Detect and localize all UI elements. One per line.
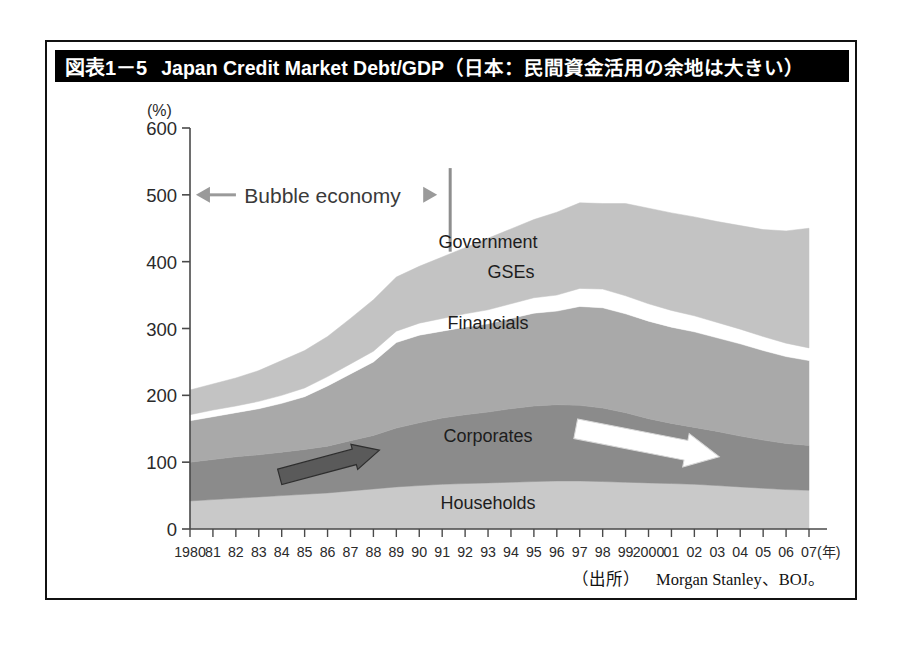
stacked-area-chart: Bubble economy 0100200300400500600(%)198…: [47, 88, 859, 600]
arrow-right-icon: [423, 187, 437, 203]
series-label-corporates: Corporates: [444, 426, 533, 446]
x-tick-label: 90: [411, 544, 427, 560]
x-tick-label: 98: [595, 544, 611, 560]
x-tick-label: 87: [343, 544, 359, 560]
figure-title-bar: 図表1－5 Japan Credit Market Debt/GDP（日本：民間…: [55, 50, 849, 82]
source-text: Morgan Stanley、BOJ。: [656, 570, 825, 589]
x-tick-label: 91: [434, 544, 450, 560]
x-tick-label: 95: [526, 544, 542, 560]
figure-number: 図表1－5: [65, 52, 147, 81]
x-tick-label: 83: [251, 544, 267, 560]
x-tick-label: 86: [320, 544, 336, 560]
x-tick-label: 81: [205, 544, 221, 560]
x-tick-label: 07: [801, 544, 817, 560]
x-tick-label: 82: [228, 544, 244, 560]
y-tick-label: 500: [146, 185, 177, 206]
x-tick-label: 85: [297, 544, 313, 560]
y-tick-label: 300: [146, 319, 177, 340]
figure-panel: 図表1－5 Japan Credit Market Debt/GDP（日本：民間…: [45, 40, 857, 600]
x-tick-label: 92: [457, 544, 473, 560]
x-tick-label: 97: [572, 544, 588, 560]
y-tick-label: 200: [146, 385, 177, 406]
bubble-economy-label: Bubble economy: [244, 184, 401, 207]
y-tick-label: 100: [146, 452, 177, 473]
x-tick-label: 05: [755, 544, 771, 560]
x-tick-label: 1980: [174, 544, 206, 560]
y-axis-unit: (%): [147, 102, 172, 119]
x-tick-label: 89: [388, 544, 404, 560]
y-tick-label: 600: [146, 118, 177, 139]
figure-title: Japan Credit Market Debt/GDP（日本：民間資金活用の余…: [161, 52, 804, 81]
x-tick-label: 84: [274, 544, 290, 560]
chart-plot-area: Bubble economy 0100200300400500600(%)198…: [47, 88, 859, 600]
x-tick-label: 99: [618, 544, 634, 560]
y-tick-label: 400: [146, 252, 177, 273]
arrow-left-icon: [196, 187, 210, 203]
series-label-gses: GSEs: [487, 262, 534, 282]
x-tick-label: 03: [709, 544, 725, 560]
x-tick-label: 01: [664, 544, 680, 560]
series-label-households: Households: [441, 493, 536, 513]
x-tick-label: 96: [549, 544, 565, 560]
x-tick-label: 2000: [633, 544, 665, 560]
x-tick-label: 93: [480, 544, 496, 560]
series-label-government: Government: [439, 232, 538, 252]
x-tick-label: 04: [732, 544, 748, 560]
x-tick-label: 02: [686, 544, 702, 560]
x-axis-unit: (年): [817, 544, 840, 560]
y-tick-label: 0: [167, 519, 177, 540]
source-tag: （出所）: [572, 570, 640, 589]
x-tick-label: 06: [778, 544, 794, 560]
source-line: （出所）Morgan Stanley、BOJ。: [47, 566, 859, 590]
x-tick-label: 94: [503, 544, 519, 560]
series-label-financials: Financials: [448, 313, 529, 333]
x-tick-label: 88: [366, 544, 382, 560]
